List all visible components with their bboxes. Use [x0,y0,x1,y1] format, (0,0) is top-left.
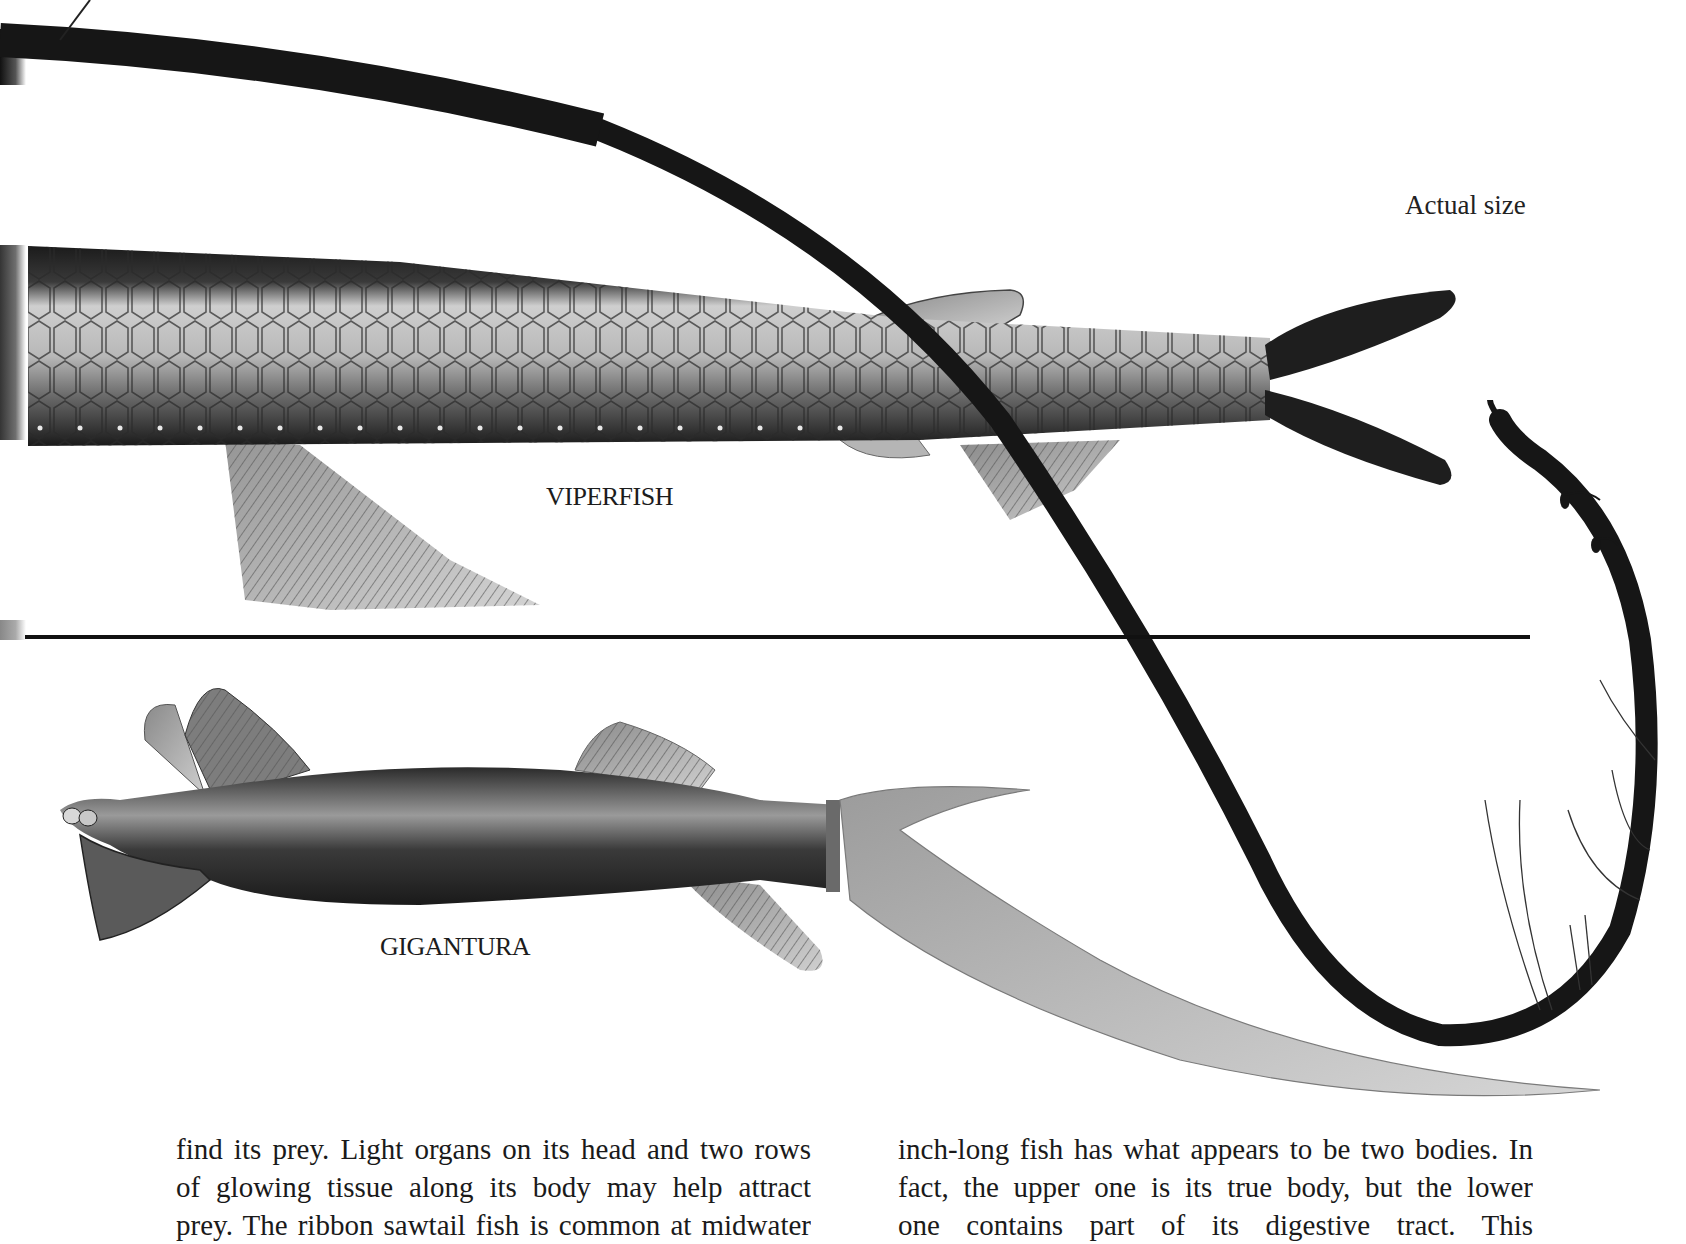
viperfish-illustration [28,246,1456,610]
gigantura-label: GIGANTURA [380,932,530,962]
text-line: one contains part of its digestive tract… [898,1206,1533,1244]
text-line: prey. The ribbon sawtail fish is common … [176,1206,811,1244]
viperfish-label: VIPERFISH [546,482,673,512]
text-line: of glowing tissue along its body may hel… [176,1168,811,1206]
body-text-left-column: find its prey. Light organs on its head … [176,1130,811,1244]
text-line: fact, the upper one is its true body, bu… [898,1168,1533,1206]
text-line: find its prey. Light organs on its head … [176,1130,811,1168]
scale-note: Actual size [1405,190,1526,221]
text-line: inch-long fish has what appears to be tw… [898,1130,1533,1168]
body-text-right-column: inch-long fish has what appears to be tw… [898,1130,1533,1244]
gigantura-illustration [60,688,1600,1095]
